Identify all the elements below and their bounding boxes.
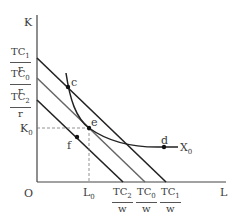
x-intercept-tc1: TC1 w xyxy=(160,186,181,214)
x-intercept-tc2: TC2 w xyxy=(112,186,133,214)
x-intercept-tc0: TC0 w xyxy=(136,186,157,214)
point-e-label: e xyxy=(91,117,98,128)
point-c xyxy=(66,85,70,89)
point-c-label: c xyxy=(71,77,77,88)
isocost-tc2 xyxy=(37,100,123,182)
l0-label: L0 xyxy=(83,187,95,203)
y-axis-label: K xyxy=(24,17,32,28)
y-intercept-tc2: TC2 r xyxy=(10,91,31,119)
k0-label: K0 xyxy=(20,123,33,139)
point-d-label: d xyxy=(161,135,168,146)
origin-label: O xyxy=(24,188,33,199)
isoquant-label: X0 xyxy=(180,142,192,158)
x-axis-label: L xyxy=(220,187,227,198)
isocost-tc1 xyxy=(37,58,166,182)
point-f-label: f xyxy=(67,140,71,151)
point-f xyxy=(75,135,79,139)
